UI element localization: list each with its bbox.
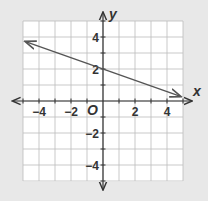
origin-label: O: [87, 102, 98, 118]
graph-panel: −4−22442−2−4Oxy: [0, 0, 208, 201]
y-tick-label: 4: [92, 31, 99, 45]
x-tick-label: −2: [64, 105, 78, 119]
x-tick-label: 4: [164, 105, 171, 119]
x-tick-label: 2: [132, 105, 139, 119]
y-tick-label: 2: [92, 63, 99, 77]
y-tick-label: −4: [85, 159, 99, 173]
x-axis-label: x: [192, 83, 202, 99]
coordinate-plane: −4−22442−2−4Oxy: [0, 0, 208, 201]
x-tick-label: −4: [32, 105, 46, 119]
y-axis-label: y: [108, 6, 118, 22]
y-tick-label: −2: [85, 127, 99, 141]
